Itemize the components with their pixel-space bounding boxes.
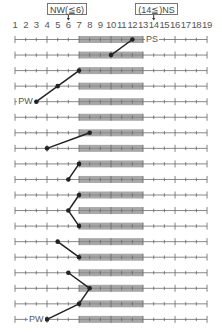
connector-line [47, 304, 79, 320]
data-point [66, 177, 71, 182]
data-point [77, 224, 82, 229]
data-point [34, 99, 39, 104]
nw-arrow-icon [67, 18, 70, 21]
connector-line [58, 242, 79, 258]
connector-line [68, 195, 79, 211]
rows-plot [0, 0, 222, 332]
ns-arrow-icon [152, 18, 155, 21]
data-point [55, 239, 60, 244]
connector-line [58, 71, 79, 87]
scale-diagram: NW(≦6) (14≦)NS 1234567891011121314151617… [0, 0, 222, 332]
data-point [77, 302, 82, 307]
data-point [77, 162, 82, 167]
data-point [77, 68, 82, 73]
data-point [45, 146, 50, 151]
data-point [77, 193, 82, 198]
data-point [87, 131, 92, 136]
pw-label: PW [17, 96, 34, 106]
data-point [87, 286, 92, 291]
data-point [77, 255, 82, 260]
pw-label: PW [28, 314, 45, 324]
data-point [109, 53, 114, 58]
connector-line [68, 164, 79, 180]
data-point [130, 37, 135, 42]
connector-line [68, 211, 79, 227]
data-point [66, 270, 71, 275]
data-point [45, 317, 50, 322]
data-point [55, 84, 60, 89]
data-point [66, 208, 71, 213]
ps-label: PS [145, 34, 159, 44]
